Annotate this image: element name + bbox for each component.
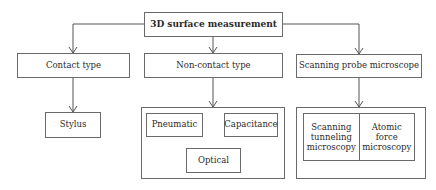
root-node: 3D surface measurement — [144, 12, 283, 37]
root-label: 3D surface measurement — [150, 19, 277, 29]
node-atomic-force-microscopy: Atomic force microscopy — [359, 114, 415, 160]
node-non-contact-type: Non-contact type — [144, 53, 283, 78]
non-contact-type-label: Non-contact type — [176, 61, 250, 71]
optical-label: Optical — [198, 156, 229, 166]
node-scanning-tunneling-microscopy: Scanning tunneling microscopy — [304, 114, 359, 160]
node-scanning-probe-microscope: Scanning probe microscope — [296, 54, 422, 78]
contact-type-label: Contact type — [46, 61, 101, 71]
capacitance-label: Capacitance — [224, 120, 277, 130]
spm-label: Scanning probe microscope — [299, 61, 419, 71]
node-stylus: Stylus — [45, 112, 101, 138]
pneumatic-label: Pneumatic — [152, 120, 198, 130]
stylus-label: Stylus — [60, 120, 87, 130]
node-pneumatic: Pneumatic — [146, 113, 203, 137]
spm-split-box: Scanning tunneling microscopy Atomic for… — [303, 113, 415, 161]
node-capacitance: Capacitance — [224, 113, 278, 137]
node-optical: Optical — [186, 148, 241, 173]
node-contact-type: Contact type — [17, 53, 130, 78]
